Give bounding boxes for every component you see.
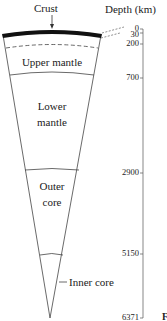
earth-wedge-diagram xyxy=(0,0,167,321)
layer-label-lower-mantle-1: Lower xyxy=(30,100,74,112)
depth-heading: Depth (km) xyxy=(105,3,156,15)
depth-tick-6371: 6371 xyxy=(122,313,139,321)
boundary-5150km xyxy=(40,254,63,256)
depth-tick-2900: 2900 xyxy=(122,168,139,177)
cropped-text: F xyxy=(162,311,167,321)
depth-tick-700: 700 xyxy=(126,73,139,82)
depth-tick-5150: 5150 xyxy=(122,249,139,258)
layer-label-inner-core: Inner core xyxy=(69,276,114,288)
layer-label-lower-mantle-2: mantle xyxy=(30,116,74,128)
crust-heading: Crust xyxy=(34,2,58,14)
crust-band xyxy=(2,30,102,38)
layer-label-outer-core-1: Outer xyxy=(32,180,72,192)
depth-tick-200: 200 xyxy=(126,39,139,48)
layer-label-upper-mantle: Upper mantle xyxy=(15,56,89,68)
boundary-700km xyxy=(10,72,94,75)
layer-label-outer-core-2: core xyxy=(32,196,72,208)
boundary-2900km xyxy=(25,169,79,171)
boundary-200km xyxy=(6,45,98,49)
